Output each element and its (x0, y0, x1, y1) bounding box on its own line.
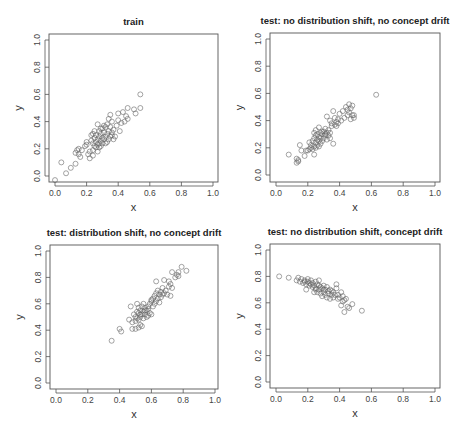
x-tick-label: 0.4 (112, 188, 124, 198)
scatter-panel-test-no-shift-drift: test: no distribution shift, concept dri… (233, 226, 443, 419)
plot-frame (49, 34, 218, 182)
plot-frame (270, 244, 440, 388)
data-point (130, 320, 135, 325)
x-tick-label: 0.6 (365, 188, 377, 198)
data-point (109, 338, 114, 343)
data-point (277, 274, 282, 279)
x-tick-label: 0.2 (302, 394, 314, 404)
data-point (138, 106, 143, 111)
data-point (286, 152, 291, 157)
y-tick-label: 0.6 (33, 298, 43, 310)
x-tick-label: 1.0 (207, 188, 219, 198)
data-point (342, 310, 347, 315)
data-point (170, 270, 175, 275)
data-point (331, 109, 336, 114)
data-point (90, 153, 95, 158)
data-point (133, 326, 138, 331)
y-axis-label: y (13, 314, 25, 320)
y-tick-label: 0.8 (33, 271, 43, 283)
data-point (76, 146, 81, 151)
y-tick-label: 0.0 (253, 376, 263, 388)
x-tick-label: 0.6 (365, 394, 377, 404)
data-point (286, 275, 291, 280)
data-point (339, 118, 344, 123)
y-tick-label: 0.6 (253, 297, 263, 309)
x-tick-label: 1.0 (209, 395, 221, 405)
scatter-panel-test-shift-no-drift: test: distribution shift, no concept dri… (13, 227, 222, 420)
y-tick-label: 0.4 (253, 323, 263, 335)
y-tick-label: 0.4 (33, 324, 43, 336)
y-tick-label: 0.0 (33, 377, 43, 389)
y-tick-label: 1.0 (32, 34, 42, 46)
x-tick-label: 0.4 (334, 394, 346, 404)
y-tick-label: 0.2 (253, 349, 263, 361)
data-point (312, 152, 317, 157)
data-points (109, 264, 189, 343)
x-tick-label: 0.2 (302, 188, 314, 198)
x-tick-label: 0.4 (334, 188, 346, 198)
y-tick-label: 1.0 (253, 244, 263, 256)
y-axis-label: y (12, 105, 24, 111)
data-point (343, 296, 348, 301)
x-axis-label: x (131, 201, 137, 213)
data-point (162, 278, 167, 283)
data-point (302, 153, 307, 158)
x-tick-label: 0.0 (270, 394, 282, 404)
data-point (345, 304, 350, 309)
y-tick-label: 0.4 (32, 115, 42, 127)
x-tick-label: 0.0 (49, 188, 61, 198)
data-point (359, 308, 364, 313)
y-tick-label: 0.8 (32, 61, 42, 73)
x-axis-label: x (352, 201, 358, 213)
x-tick-label: 0.4 (114, 395, 126, 405)
data-point (350, 302, 355, 307)
data-point (297, 143, 302, 148)
data-point (138, 92, 143, 97)
panel-title: train (123, 16, 144, 27)
y-tick-label: 0.0 (32, 170, 42, 182)
x-tick-label: 1.0 (429, 188, 441, 198)
data-point (139, 324, 144, 329)
data-point (154, 279, 159, 284)
panel-title: test: distribution shift, no concept dri… (47, 227, 223, 238)
scatter-panel-train: train0.00.20.40.60.81.00.00.20.40.60.81.… (12, 16, 219, 213)
data-point (184, 268, 189, 273)
data-points (277, 274, 365, 315)
data-point (128, 304, 133, 309)
data-point (179, 264, 184, 269)
data-point (117, 129, 122, 134)
x-tick-label: 0.0 (50, 395, 62, 405)
y-tick-label: 0.8 (253, 270, 263, 282)
y-tick-label: 0.6 (253, 87, 263, 99)
data-point (331, 141, 336, 146)
x-tick-label: 0.6 (144, 188, 156, 198)
scatter-panel-test-no-shift-no-drift: test: no distribution shift, no concept … (233, 15, 450, 213)
data-point (342, 115, 347, 120)
y-tick-label: 0.2 (253, 142, 263, 154)
data-point (337, 111, 342, 116)
x-tick-label: 0.8 (397, 394, 409, 404)
x-tick-label: 0.8 (397, 188, 409, 198)
y-tick-label: 0.6 (32, 88, 42, 100)
y-tick-label: 0.2 (33, 350, 43, 362)
y-tick-label: 1.0 (33, 245, 43, 257)
data-point (114, 123, 119, 128)
x-axis-label: x (131, 408, 137, 420)
x-tick-label: 0.8 (177, 395, 189, 405)
data-points (53, 92, 143, 183)
panel-title: test: no distribution shift, no concept … (261, 15, 451, 26)
data-point (73, 161, 78, 166)
data-point (149, 312, 154, 317)
data-point (168, 293, 173, 298)
x-axis-label: x (352, 407, 358, 419)
x-tick-label: 0.8 (175, 188, 187, 198)
data-point (68, 165, 73, 170)
data-point (122, 119, 127, 124)
data-point (59, 160, 64, 165)
data-point (119, 120, 124, 125)
x-tick-label: 0.2 (82, 395, 94, 405)
x-tick-label: 0.6 (145, 395, 157, 405)
data-point (116, 111, 121, 116)
data-point (116, 118, 121, 123)
data-point (299, 148, 304, 153)
